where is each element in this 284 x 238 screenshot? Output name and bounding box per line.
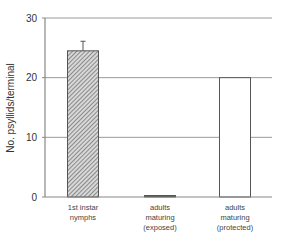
y-tick-label: 30 [26,13,38,24]
x-category-label: 1st instarnymphs [68,203,99,222]
x-category-labels: 1st instarnymphsadultsmaturing(exposed)a… [68,203,254,232]
y-tick-labels: 0102030 [26,13,38,203]
bar-chart: 0102030 1st instarnymphsadultsmaturing(e… [0,0,284,238]
y-tick-label: 0 [31,192,37,203]
bar [220,78,251,197]
y-tick-label: 20 [26,72,38,83]
y-axis-title: No. psyllids/terminal [5,63,16,152]
x-category-label: adultsmaturing(exposed) [143,203,177,232]
bar [68,51,99,197]
x-category-label: adultsmaturing(protected) [217,203,254,232]
bars [68,41,251,197]
y-tick-label: 10 [26,132,38,143]
